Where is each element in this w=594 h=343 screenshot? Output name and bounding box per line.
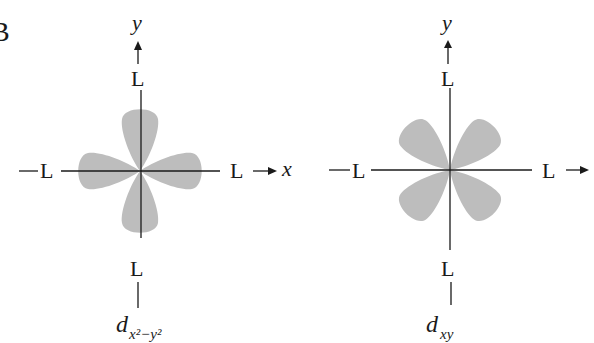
ligand-left: L — [40, 160, 53, 182]
ligand-top: L — [131, 68, 144, 90]
ligand-top: L — [441, 68, 454, 90]
orbital-diagram-dxy: y L L L L d xy — [294, 0, 594, 335]
ligand-bottom: L — [441, 258, 454, 280]
y-axis-label: y — [132, 12, 142, 34]
orbital-label: d — [426, 312, 438, 336]
orbital-subscript: xy — [440, 326, 453, 343]
ligand-right: L — [230, 160, 243, 182]
ligand-bottom: L — [130, 258, 143, 280]
orbital-diagram-dx2y2: y L L L L x d x²−y² — [0, 0, 300, 335]
orbital-label: d — [116, 312, 128, 336]
orbital-subscript: x²−y² — [129, 326, 161, 343]
ligand-left: L — [352, 160, 365, 182]
y-axis-label: y — [442, 12, 452, 34]
x-axis-label: x — [282, 158, 292, 180]
ligand-right: L — [542, 160, 555, 182]
